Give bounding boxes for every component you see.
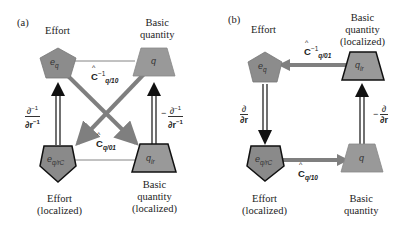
fraction-right-neg-inv-derivative: − ∂−1 ∂r−1: [168, 103, 183, 130]
label-effort-localized: Effort(localized): [242, 193, 287, 217]
panel-b-label: (b): [228, 14, 240, 25]
node-eq: eq: [258, 61, 267, 73]
label-basic: Basic: [146, 17, 169, 28]
label-effort: Effort: [251, 24, 276, 36]
arrow-up-right: [355, 83, 369, 97]
label-basic-quantity: Basicquantity: [344, 193, 378, 217]
label-quantity: quantity: [140, 29, 174, 40]
node-eq: eq: [50, 57, 59, 69]
node-qir: qir: [355, 60, 364, 72]
label-basic-quantity-localized: Basicquantity(localized): [132, 179, 177, 215]
label-effort: Effort: [45, 25, 70, 37]
label-basic-quantity-localized: Basicquantity(localized): [340, 12, 385, 48]
node-eqrc: eq/rC: [47, 154, 64, 166]
node-q: q: [151, 56, 156, 66]
node-eqrc: eq/rC: [255, 154, 272, 166]
label-effort-localized: Effort(localized): [37, 193, 82, 217]
arrow-down-left: [258, 130, 272, 145]
operator-c-q01: Cq/01: [96, 138, 116, 151]
node-qir: qir: [146, 153, 155, 165]
operator-c-q10: Cq/10: [298, 168, 318, 181]
operator-c-inv-q10: C−1q/10: [91, 70, 118, 84]
fraction-right-neg-derivative: − ∂ ∂r: [380, 104, 388, 125]
fraction-left-inv-derivative: ∂−1 ∂r−1: [25, 103, 40, 130]
fraction-left-derivative: ∂ ∂r: [240, 104, 248, 125]
operator-c-inv-q01: C−1q/01: [304, 45, 331, 59]
arrow-up-right: [147, 82, 161, 96]
panel-a: (a) Effort Basic quantity eq q eq/rC qir…: [0, 0, 200, 225]
panel-b: (b) Effort Basicquantity(localized) eq q…: [200, 0, 402, 225]
arrow-eq-to-qir: [66, 74, 136, 143]
node-q: q: [359, 153, 364, 163]
panel-a-label: (a): [17, 17, 29, 28]
label-basic-quantity: Basic quantity: [140, 17, 174, 41]
arrow-up-left: [51, 82, 65, 96]
